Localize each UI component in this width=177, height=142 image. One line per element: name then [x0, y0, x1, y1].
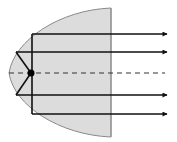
focal-point: [28, 70, 35, 77]
parabolic-reflector-diagram: [0, 0, 177, 142]
reflector-body: [9, 8, 111, 137]
